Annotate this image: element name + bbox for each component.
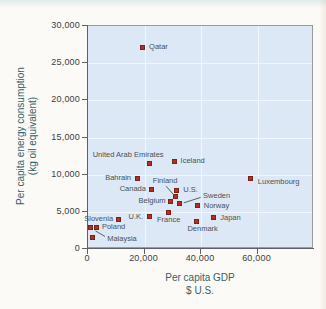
point-label-u-s: U.S. xyxy=(183,186,198,194)
gridline-horizontal xyxy=(88,63,312,64)
y-axis-tick xyxy=(82,211,87,212)
gridline-vertical xyxy=(145,26,146,247)
point-label-iceland: Iceland xyxy=(181,157,205,165)
point-label-malaysia: Malaysia xyxy=(107,235,137,243)
y-axis-tick-label: 15,000 xyxy=(34,132,80,142)
gridline-vertical xyxy=(201,26,202,247)
data-point-japan xyxy=(211,215,216,220)
x-axis-tick-label: 20,000 xyxy=(121,253,167,263)
data-point-united-arab-emirates xyxy=(147,161,152,166)
data-point-sweden xyxy=(177,201,182,206)
x-axis-title: Per capita GDP $ U.S. xyxy=(110,271,290,297)
y-axis-title-line2: (kg oil equivalent) xyxy=(27,41,39,231)
scan-artifact-right xyxy=(319,0,326,309)
x-axis-tick-label: 0 xyxy=(64,253,110,263)
figure-scatter-energy-vs-gdp: 05,00010,00015,00020,00025,00030,000020,… xyxy=(0,0,326,309)
y-axis-tick-label: 20,000 xyxy=(34,94,80,104)
data-point-finland xyxy=(173,194,178,199)
x-axis-tick-label: 60,000 xyxy=(234,253,280,263)
x-axis-title-line1: Per capita GDP xyxy=(110,271,290,284)
point-label-bahrain: Bahrain xyxy=(105,174,131,182)
y-axis-tick xyxy=(82,62,87,63)
gridline-horizontal xyxy=(88,138,312,139)
data-point-iceland xyxy=(172,159,177,164)
data-point-u-s xyxy=(174,188,179,193)
point-label-france: France xyxy=(157,216,180,224)
y-axis-tick-label: 10,000 xyxy=(34,169,80,179)
point-label-united-arab-emirates: United Arab Emirates xyxy=(93,151,164,159)
data-point-belgium xyxy=(168,199,173,204)
data-point-france xyxy=(166,210,171,215)
gridline-horizontal xyxy=(88,100,312,101)
y-axis-tick-label: 30,000 xyxy=(34,20,80,30)
x-axis-tick-label: 40,000 xyxy=(177,253,223,263)
y-axis-title-line1: Per capita energy consumption xyxy=(15,41,27,231)
point-label-belgium: Belgium xyxy=(139,197,166,205)
y-axis-tick-label: 5,000 xyxy=(34,206,80,216)
data-point-slovenia xyxy=(116,217,121,222)
point-label-japan: Japan xyxy=(220,214,240,222)
scan-artifact-top xyxy=(0,0,326,8)
y-axis-title: Per capita energy consumption (kg oil eq… xyxy=(15,41,39,231)
data-point-malaysia xyxy=(88,225,93,230)
point-label-denmark: Denmark xyxy=(187,225,217,233)
data-point-poland xyxy=(94,225,99,230)
gridline-vertical xyxy=(258,26,259,247)
data-point-canada xyxy=(149,187,154,192)
y-axis-tick xyxy=(82,137,87,138)
x-axis-title-line2: $ U.S. xyxy=(110,284,290,297)
y-axis-tick-label: 25,000 xyxy=(34,57,80,67)
y-axis-tick xyxy=(82,99,87,100)
point-label-norway: Norway xyxy=(204,202,229,210)
gridline-horizontal xyxy=(88,212,312,213)
point-label-luxembourg: Luxembourg xyxy=(258,178,300,186)
data-point-norway xyxy=(195,203,200,208)
y-axis-tick-label: 0 xyxy=(34,243,80,253)
plot-area xyxy=(87,25,313,248)
data-point-qatar xyxy=(140,45,145,50)
point-label-canada: Canada xyxy=(120,185,146,193)
y-axis-tick xyxy=(82,25,87,26)
point-label-finland: Finland xyxy=(153,177,178,185)
y-axis-tick xyxy=(82,174,87,175)
data-point-u-k xyxy=(147,214,152,219)
data-point-luxembourg xyxy=(248,176,253,181)
point-label-u-k: U.K. xyxy=(129,213,144,221)
point-label-sweden: Sweden xyxy=(203,192,230,200)
data-point-unlabeled xyxy=(90,235,95,240)
data-point-bahrain xyxy=(135,176,140,181)
point-label-poland: Poland xyxy=(102,223,125,231)
point-label-qatar: Qatar xyxy=(149,43,168,51)
